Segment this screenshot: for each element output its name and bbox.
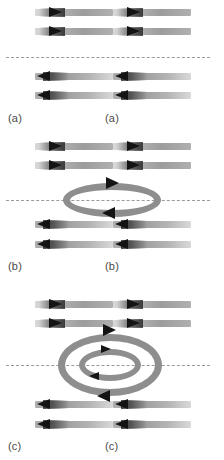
panel-b-left-label: (b) — [8, 260, 22, 272]
arrow-head-icon — [49, 141, 62, 151]
arrow-right — [113, 300, 191, 309]
panel-c-left-label: (c) — [8, 440, 21, 452]
arrow-head-icon — [115, 71, 128, 81]
panel-a-top-row-1 — [35, 8, 191, 17]
arrow-right — [113, 142, 191, 151]
arrow-right — [113, 8, 191, 17]
arrow-head-icon — [37, 71, 50, 81]
panel-b-top-row-2 — [35, 161, 191, 170]
panel-c-bottom-row-1 — [35, 400, 191, 409]
figure-canvas: (a) (a) — [0, 0, 224, 460]
arrow-left — [113, 220, 191, 229]
vortex-arrowhead-outer-bottom-left — [97, 390, 110, 402]
arrow-left — [113, 91, 191, 100]
arrow-head-icon — [49, 318, 62, 328]
arrow-head-icon — [49, 26, 62, 36]
arrow-head-icon — [127, 141, 140, 151]
panel-b-vortex-loop — [62, 181, 162, 219]
vortex-arrowhead-inner-top-right — [101, 345, 111, 353]
arrow-head-icon — [37, 90, 50, 100]
arrow-right — [35, 142, 113, 151]
arrow-left — [35, 91, 113, 100]
arrow-left — [35, 72, 113, 81]
vortex-arrowhead-top-right — [106, 177, 119, 189]
vortex-arrowhead-outer-top-right — [103, 324, 116, 336]
arrow-left — [35, 240, 113, 249]
arrow-head-icon — [115, 419, 128, 429]
arrow-right — [35, 27, 113, 36]
panel-a-bottom-row-2 — [35, 91, 191, 100]
panel-c-top-row-1 — [35, 300, 191, 309]
arrow-left — [113, 400, 191, 409]
arrow-left — [35, 420, 113, 429]
arrow-head-icon — [127, 160, 140, 170]
panel-b-bottom-row-1 — [35, 220, 191, 229]
panel-c-bottom-row-2 — [35, 420, 191, 429]
arrow-left — [113, 420, 191, 429]
panel-b-center-label: (b) — [105, 260, 119, 272]
arrow-head-icon — [127, 26, 140, 36]
panel-b: (b) (b) — [0, 130, 224, 280]
panel-a-top-row-2 — [35, 27, 191, 36]
panel-a-center-label: (a) — [105, 112, 119, 124]
arrow-left — [35, 220, 113, 229]
arrow-head-icon — [115, 219, 128, 229]
arrow-left — [113, 72, 191, 81]
arrow-head-icon — [115, 239, 128, 249]
arrow-left — [113, 240, 191, 249]
arrow-head-icon — [37, 219, 50, 229]
panel-c-center-label: (c) — [105, 440, 118, 452]
panel-c: (c) (c) — [0, 280, 224, 460]
panel-a-left-label: (a) — [8, 112, 22, 124]
arrow-head-icon — [127, 318, 140, 328]
arrow-head-icon — [37, 399, 50, 409]
arrow-right — [113, 27, 191, 36]
arrow-right — [35, 8, 113, 17]
panel-a-center-dashed-line — [6, 57, 210, 58]
arrow-head-icon — [127, 7, 140, 17]
arrow-head-icon — [37, 419, 50, 429]
arrow-right — [35, 319, 113, 328]
arrow-head-icon — [115, 90, 128, 100]
arrow-head-icon — [37, 239, 50, 249]
arrow-head-icon — [115, 399, 128, 409]
panel-b-bottom-row-2 — [35, 240, 191, 249]
vortex-arrowhead-bottom-left — [102, 207, 115, 219]
arrow-right — [35, 161, 113, 170]
arrow-right — [113, 161, 191, 170]
arrow-head-icon — [49, 7, 62, 17]
panel-c-vortex-loops — [55, 332, 165, 398]
arrow-head-icon — [127, 299, 140, 309]
vortex-arrowhead-inner-bottom-left — [89, 372, 99, 380]
arrow-right — [113, 319, 191, 328]
arrow-right — [35, 300, 113, 309]
arrow-head-icon — [49, 299, 62, 309]
panel-a-bottom-row-1 — [35, 72, 191, 81]
panel-a: (a) (a) — [0, 0, 224, 130]
panel-b-top-row-1 — [35, 142, 191, 151]
arrow-head-icon — [49, 160, 62, 170]
